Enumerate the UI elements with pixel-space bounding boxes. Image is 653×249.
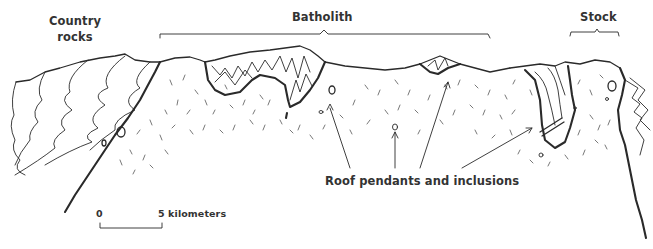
inclusion [539,153,543,157]
batholith-bracket [160,30,490,38]
inclusion [393,124,398,130]
inclusion [608,81,616,91]
batholith-top [160,46,510,107]
inclusion [329,86,335,94]
stock-region [510,60,620,157]
batholith-left-contact [65,62,160,212]
label-country-rocks: Country rocks [40,13,110,45]
label-country-rocks-line2: rocks [40,29,110,45]
pointer-arrows [327,82,532,168]
label-country-rocks-line1: Country [40,13,110,29]
stock-bracket [570,29,619,36]
country-rocks-right [618,68,650,238]
country-rocks-left [11,54,160,175]
inclusion [102,140,106,146]
label-stock: Stock [580,10,617,24]
scale-end-label: 5 kilometers [158,208,226,219]
label-roof-pendants: Roof pendants and inclusions [325,174,519,188]
inclusion [319,111,323,114]
scale-start-label: 0 [96,208,103,219]
inclusion [286,113,287,118]
scale-bar [100,223,162,228]
label-batholith: Batholith [292,10,353,24]
inclusion [606,98,609,101]
